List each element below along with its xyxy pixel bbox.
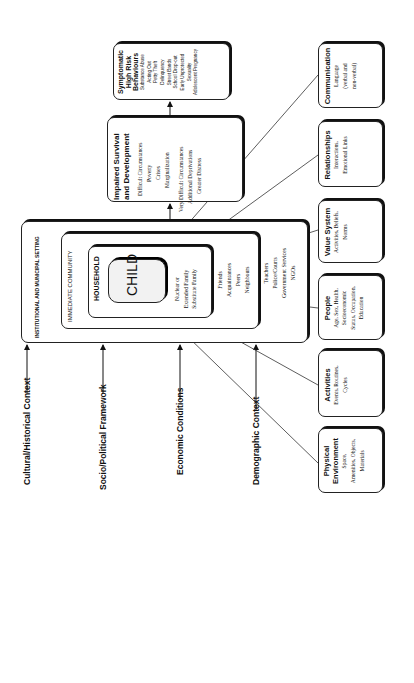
- activities-box: Activities Events, Routines, Cycles: [318, 350, 383, 417]
- impaired-title-1: Impaired Survival: [112, 120, 122, 200]
- context-demographic: Demographic Context: [251, 397, 261, 485]
- circumstance-item: Poverty: [145, 120, 154, 196]
- symptom-item: Acting Out: [147, 46, 154, 98]
- institutional-label: INSTITUTIONAL AND MUNICIPAL SETTING: [34, 236, 40, 338]
- context-cultural-historical: Cultural/Historical Context: [22, 378, 32, 485]
- communication-box: Communication Language (verbal and non-v…: [318, 43, 383, 108]
- circumstance-item: Difficult Circumstances: [136, 120, 145, 196]
- impaired-title-2: and Development: [122, 120, 132, 200]
- circumstance-item: Crises: [154, 120, 163, 196]
- household-item: Substitute Family: [190, 263, 199, 315]
- physical-environment-box: Physical Environment Space, Amenities, O…: [318, 428, 383, 493]
- symptom-item: Street Bands: [167, 46, 174, 98]
- influence-detail: Events, Routines,: [332, 355, 341, 415]
- symptomatic-title-2: High Risk: [125, 46, 133, 98]
- household-item: Nuclear or: [173, 263, 182, 315]
- community-item: Friends: [216, 256, 225, 304]
- child-box: CHILD: [108, 259, 166, 303]
- impaired-survival-box: Impaired Survival and Development Diffic…: [107, 117, 243, 202]
- symptom-item: Delinquency: [160, 46, 167, 98]
- relationships-box: Relationships Interactions, Emotional Li…: [318, 121, 383, 187]
- circumstance-item: Additional Deprivations: [186, 120, 195, 204]
- household-label: HOUSEHOLD: [93, 256, 100, 301]
- symptomatic-behaviours-box: Symptomatic High Risk Behaviours Substan…: [113, 43, 230, 100]
- people-title: People: [323, 278, 332, 338]
- value-system-box: Value System Activities, Beliefs, Norms: [318, 200, 383, 263]
- communication-title: Communication: [323, 46, 332, 106]
- influence-detail: Space,: [340, 431, 349, 491]
- symptom-item: Petty Theft: [153, 46, 160, 98]
- community-item: Neighbours: [243, 256, 252, 304]
- influence-detail: Activities, Beliefs,: [332, 203, 341, 261]
- symptom-item: Substance Abuse: [140, 46, 147, 98]
- household-item: Extended Family: [182, 263, 191, 315]
- child-label: CHILD: [124, 254, 140, 296]
- influence-detail: Socioeconomic: [340, 278, 348, 338]
- symptom-item: Early Unprotected: [180, 46, 187, 98]
- influence-detail: non-verbal): [350, 46, 359, 106]
- symptom-item: School Drop-out: [173, 46, 180, 98]
- circumstance-item: Marginalization: [163, 120, 172, 196]
- influence-detail: Cycles: [341, 355, 350, 415]
- institution-item: NGOs: [289, 244, 298, 302]
- influence-detail: Education: [357, 278, 365, 338]
- symptomatic-title-3: Behaviours: [132, 46, 140, 98]
- influence-detail: (verbal and: [341, 46, 350, 106]
- influence-detail: Amenities, Objects,: [349, 431, 358, 491]
- value-system-title: Value System: [323, 203, 332, 261]
- influence-detail: Age, Sex, Health,: [332, 278, 340, 338]
- context-socio-political: Socio/Political Framework: [98, 384, 108, 490]
- circumstance-item: Very Difficult Circumstances: [177, 120, 186, 212]
- activities-title: Activities: [323, 355, 332, 415]
- physical-environment-title-2: Environment: [332, 431, 341, 491]
- relationships-title: Relationships: [323, 125, 332, 185]
- influence-detail: Norms: [341, 203, 350, 261]
- symptom-item: Adolescent Pregnancy: [193, 46, 200, 98]
- institution-item: Teachers: [262, 244, 271, 302]
- influence-detail: Materials: [358, 431, 367, 491]
- institution-item: Police/Courts: [271, 244, 280, 302]
- influence-detail: Interactions,: [332, 125, 341, 185]
- community-item: Acquaintances: [225, 256, 234, 304]
- symptomatic-title-1: Symptomatic: [117, 46, 125, 98]
- people-box: People Age, Sex, Health, Socioeconomic S…: [318, 275, 383, 340]
- context-economic: Economic Conditions: [175, 388, 185, 475]
- symptom-item: Sexuality: [187, 46, 194, 98]
- immediate-community-label: IMMEDIATE COMMUNITY: [67, 250, 73, 322]
- circumstance-item: Greater Distress: [195, 120, 204, 196]
- influence-detail: Status, Occupation,: [349, 278, 357, 338]
- influence-detail: Emotional Links: [341, 125, 350, 185]
- community-item: Peers: [234, 256, 243, 304]
- institution-item: Government Services: [280, 244, 289, 302]
- influence-detail: Language: [332, 46, 341, 106]
